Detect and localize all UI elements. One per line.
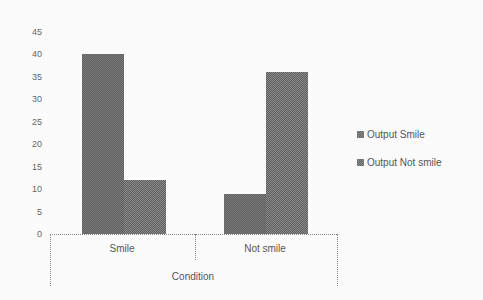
y-tick-label: 40 <box>20 49 42 59</box>
x-category-label-not-smile: Not smile <box>244 243 286 254</box>
y-tick-label: 30 <box>20 94 42 104</box>
legend-swatch-icon <box>357 159 364 166</box>
y-tick-label: 35 <box>20 72 42 82</box>
y-tick-label: 25 <box>20 117 42 127</box>
y-tick-label: 15 <box>20 162 42 172</box>
legend-item-output-not-smile: Output Not smile <box>357 157 441 168</box>
y-tick-label: 0 <box>20 229 42 239</box>
x-axis-left-border <box>50 234 51 286</box>
x-axis-right-border <box>337 234 338 286</box>
y-tick-label: 10 <box>20 184 42 194</box>
x-axis-category-divider <box>195 234 196 260</box>
y-tick-label: 20 <box>20 139 42 149</box>
legend-label: Output Smile <box>367 129 425 140</box>
legend-swatch-icon <box>357 131 364 138</box>
bar-not-smile-output-smile <box>224 194 266 235</box>
y-tick-label: 45 <box>20 27 42 37</box>
bar-smile-output-not-smile <box>124 180 166 234</box>
bar-smile-output-smile <box>82 54 124 234</box>
y-tick-label: 5 <box>20 207 42 217</box>
x-category-label-smile: Smile <box>109 243 134 254</box>
legend-label: Output Not smile <box>367 157 441 168</box>
bar-chart: 0 5 10 15 20 25 30 35 40 45 Smile Not sm… <box>0 0 483 300</box>
legend-item-output-smile: Output Smile <box>357 129 425 140</box>
x-axis-title: Condition <box>172 271 214 282</box>
bar-not-smile-output-not-smile <box>266 72 308 234</box>
x-axis-baseline <box>50 234 337 235</box>
